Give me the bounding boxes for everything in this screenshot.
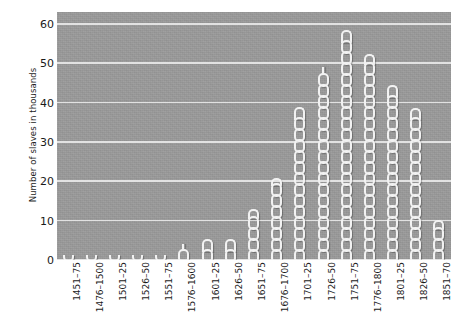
plot-area xyxy=(57,12,451,260)
chain-link xyxy=(86,255,97,260)
chain-link xyxy=(132,255,143,260)
chain-link xyxy=(271,249,282,260)
chain-link xyxy=(318,249,329,260)
x-tick-label: 1551–75 xyxy=(165,262,174,301)
x-tick-label: 1801–25 xyxy=(397,262,406,301)
bar xyxy=(178,244,189,260)
y-tick-label: 40 xyxy=(28,97,54,108)
chain-link xyxy=(341,249,352,260)
bar xyxy=(63,255,74,260)
x-tick-label: 1451–75 xyxy=(73,262,82,301)
chain-link xyxy=(248,249,259,260)
chain-link xyxy=(178,249,189,260)
bar xyxy=(132,252,143,260)
x-tick-label: 1576–1600 xyxy=(188,262,197,312)
bar xyxy=(341,20,352,260)
y-tick-label: 30 xyxy=(28,136,54,147)
y-tick-label: 20 xyxy=(28,176,54,187)
bar xyxy=(294,99,305,260)
chain-link xyxy=(294,249,305,260)
x-tick-label: 1501–25 xyxy=(119,262,128,301)
y-tick-label: 10 xyxy=(28,215,54,226)
x-tick-label: 1851–70 xyxy=(443,262,452,301)
chart-figure: Number of slaves in thousands 0102030405… xyxy=(0,0,465,335)
chain-link xyxy=(433,249,444,260)
x-tick-label: 1526–50 xyxy=(142,262,151,301)
bar xyxy=(364,47,375,260)
chain-link xyxy=(202,249,213,260)
y-tick-label: 50 xyxy=(28,58,54,69)
x-tick-label: 1826–50 xyxy=(420,262,429,301)
bar xyxy=(155,252,166,260)
chain-link xyxy=(364,249,375,260)
bar xyxy=(271,173,282,260)
chain-link xyxy=(387,249,398,260)
chain-link xyxy=(410,249,421,260)
x-tick-label: 1626–50 xyxy=(235,262,244,301)
chain-link xyxy=(155,255,166,260)
bar xyxy=(433,217,444,260)
x-axis-tick-labels: 1451–751476–15001501–251526–501551–75157… xyxy=(57,262,451,335)
x-tick-label: 1726–50 xyxy=(328,262,337,301)
x-tick-label: 1601–25 xyxy=(212,262,221,301)
bar xyxy=(109,252,120,260)
chain-link xyxy=(225,249,236,260)
y-axis-tick-labels: 0102030405060 xyxy=(26,0,54,335)
bar xyxy=(86,255,97,260)
bar xyxy=(318,63,329,260)
x-tick-label: 1701–25 xyxy=(304,262,313,301)
x-tick-label: 1776–1800 xyxy=(374,262,383,312)
bar-series xyxy=(57,12,451,260)
x-tick-label: 1676–1700 xyxy=(281,262,290,312)
x-tick-label: 1476–1500 xyxy=(96,262,105,312)
y-tick-label: 60 xyxy=(28,18,54,29)
bar xyxy=(225,232,236,260)
bar xyxy=(202,232,213,260)
bar xyxy=(410,103,421,260)
x-tick-label: 1651–75 xyxy=(258,262,267,301)
chain-link xyxy=(63,255,74,260)
bar xyxy=(248,205,259,260)
bar xyxy=(387,75,398,260)
x-tick-label: 1751–75 xyxy=(351,262,360,301)
y-tick-label: 0 xyxy=(28,255,54,266)
chain-link xyxy=(109,255,120,260)
